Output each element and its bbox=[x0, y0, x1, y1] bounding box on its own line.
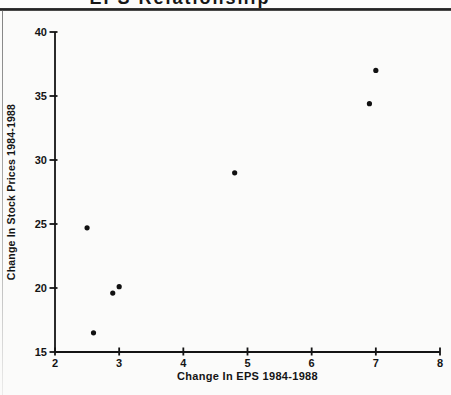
y-tick-label: 25 bbox=[35, 218, 47, 230]
data-point bbox=[110, 291, 115, 296]
data-point bbox=[84, 225, 89, 230]
data-point bbox=[117, 284, 122, 289]
x-tick-label: 3 bbox=[116, 357, 122, 369]
data-point bbox=[232, 170, 237, 175]
x-axis-label: Change In EPS 1984-1988 bbox=[55, 370, 440, 382]
scanned-chart-page: EPS Relationship 1520253035402345678 Cha… bbox=[0, 0, 451, 395]
y-tick-label: 30 bbox=[35, 154, 47, 166]
x-tick-label: 6 bbox=[309, 357, 315, 369]
y-tick-label: 15 bbox=[35, 346, 47, 358]
x-tick-label: 4 bbox=[180, 357, 187, 369]
scatter-plot: 1520253035402345678 bbox=[0, 0, 451, 395]
x-tick-label: 5 bbox=[244, 357, 250, 369]
y-tick-label: 35 bbox=[35, 90, 47, 102]
data-point bbox=[373, 68, 378, 73]
y-axis-label: Change In Stock Prices 1984-1988 bbox=[5, 62, 19, 322]
y-tick-label: 20 bbox=[35, 282, 47, 294]
data-point bbox=[91, 330, 96, 335]
y-tick-label: 40 bbox=[35, 26, 47, 38]
data-point bbox=[367, 101, 372, 106]
x-tick-label: 2 bbox=[52, 357, 58, 369]
x-tick-label: 8 bbox=[437, 357, 443, 369]
x-tick-label: 7 bbox=[373, 357, 379, 369]
